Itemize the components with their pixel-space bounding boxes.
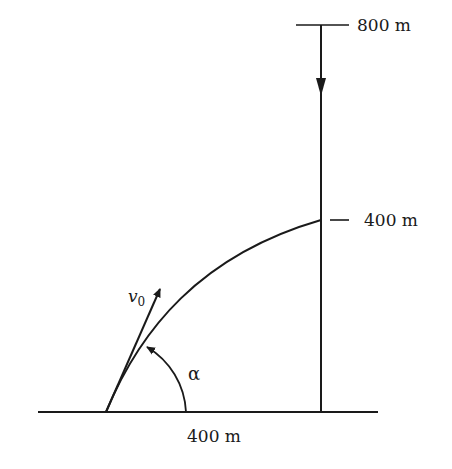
velocity-subscript: 0 [138,295,146,309]
angle-label: α [188,363,200,384]
velocity-symbol: v [128,286,138,306]
velocity-label: v0 [128,286,145,309]
trajectory-curve [106,220,321,412]
hit-height-label: 400 m [364,210,418,230]
horizontal-distance-label: 400 m [187,426,241,446]
angle-arc [147,347,186,412]
top-height-label: 800 m [357,15,411,35]
projectile-diagram: 800 m 400 m 400 m v0 α [0,0,452,469]
falling-arrow-icon [316,78,326,96]
